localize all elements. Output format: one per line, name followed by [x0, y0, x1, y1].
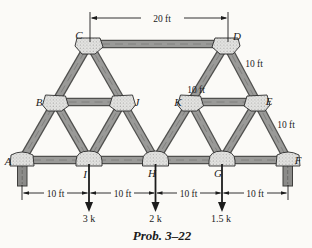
truss-figure: 20 ft 10 ft 10 ft 10 ft 10 ft 10 ft 10 f… [0, 0, 312, 248]
gusset-joint-h [143, 151, 169, 166]
joint-label-k: K [173, 96, 182, 108]
joint-label-h: H [147, 167, 157, 179]
joint-label-j: J [135, 96, 141, 108]
load-label-1: 2 k [149, 213, 162, 224]
dim-bottom-1: 10 ft [114, 189, 132, 199]
dim-mid-ke: 10 ft [187, 85, 205, 95]
joint-label-d: D [232, 30, 241, 42]
gusset-joint-g [209, 151, 235, 166]
load-arrows: 3 k 2 k 1.5 k [83, 164, 231, 224]
gusset-plates [10, 38, 300, 166]
load-label-0: 3 k [83, 213, 96, 224]
gusset-joint-b [43, 95, 69, 111]
joint-label-i: I [82, 168, 88, 180]
truss-drawing: 20 ft 10 ft 10 ft 10 ft 10 ft 10 ft 10 f… [0, 0, 312, 248]
dim-bottom-2: 10 ft [180, 189, 198, 199]
gusset-joint-i [76, 151, 102, 166]
dim-bottom-3: 10 ft [246, 189, 264, 199]
figure-caption: Prob. 3–22 [133, 228, 192, 243]
dimension-line-top: 20 ft [90, 12, 228, 42]
joint-label-b: B [36, 96, 43, 108]
load-label-2: 1.5 k [211, 213, 231, 224]
dim-bottom-0: 10 ft [47, 189, 65, 199]
dim-diag-de: 10 ft [245, 59, 263, 69]
joint-label-f: F [294, 154, 302, 166]
dim-top-span: 20 ft [153, 14, 171, 24]
joint-label-g: G [214, 167, 222, 179]
gusset-joint-j [110, 95, 136, 111]
joint-label-c: C [75, 29, 83, 41]
gusset-joint-a [10, 152, 34, 166]
joint-label-a: A [4, 155, 12, 167]
dim-diag-ef: 10 ft [277, 120, 295, 130]
joint-label-e: E [265, 95, 273, 107]
